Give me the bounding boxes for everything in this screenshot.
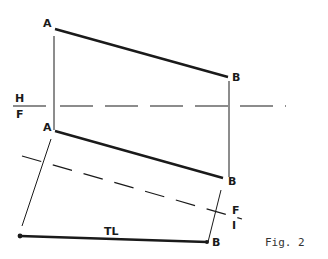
point-b-aux bbox=[205, 240, 209, 244]
point-a-aux bbox=[18, 234, 23, 239]
label-b-aux: B bbox=[212, 236, 220, 249]
label-fold-1: I bbox=[232, 219, 236, 232]
label-true-length: TL bbox=[104, 225, 119, 238]
label-fold-f: F bbox=[232, 204, 240, 217]
label-a-top: A bbox=[43, 17, 52, 30]
projector-a-aux bbox=[22, 139, 51, 226]
label-b-front: B bbox=[228, 175, 236, 188]
label-b-top: B bbox=[232, 71, 240, 84]
top-view-line-ab bbox=[55, 29, 228, 77]
projector-b-aux bbox=[208, 190, 221, 242]
front-view-line-ab bbox=[55, 131, 223, 178]
figure-caption: Fig. 2 bbox=[265, 236, 305, 249]
label-f: F bbox=[16, 108, 24, 121]
descriptive-geometry-diagram: A B H F A B F I TL B Fig. 2 bbox=[0, 0, 328, 259]
label-a-front: A bbox=[43, 121, 52, 134]
label-h: H bbox=[15, 92, 24, 105]
fold-line-f1-dashed bbox=[22, 156, 242, 219]
